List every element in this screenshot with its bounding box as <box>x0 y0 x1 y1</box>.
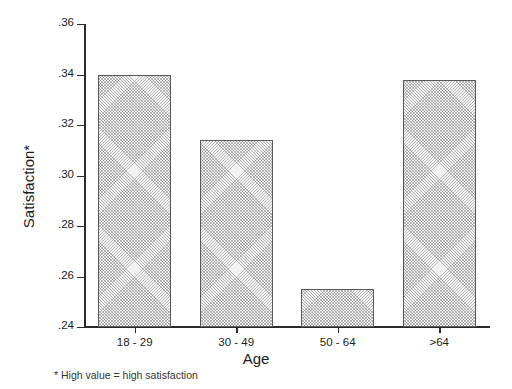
y-tick-mark <box>77 176 84 177</box>
y-tick-mark <box>77 24 84 25</box>
y-tick-mark <box>77 277 84 278</box>
y-tick-label: .32 <box>58 117 74 129</box>
y-tick-label: .34 <box>58 67 74 79</box>
y-axis-title-holder: Satisfaction* <box>0 0 40 389</box>
x-tick-label: 50 - 64 <box>320 336 356 348</box>
bar <box>200 140 273 327</box>
x-tick-mark <box>439 327 440 333</box>
x-tick-mark <box>135 327 136 333</box>
y-axis-title: Satisfaction* <box>20 67 37 307</box>
y-tick-label: .36 <box>58 16 74 28</box>
x-tick-label: 30 - 49 <box>218 336 254 348</box>
bar <box>301 289 374 327</box>
x-tick-label: 18 - 29 <box>117 336 153 348</box>
chart-footnote: * High value = high satisfaction <box>54 369 198 381</box>
y-tick-mark <box>77 75 84 76</box>
bar <box>403 80 476 327</box>
bar <box>98 75 171 328</box>
y-tick-label: .24 <box>58 319 74 331</box>
x-axis-title: Age <box>0 350 512 367</box>
bar-chart-figure: Satisfaction* .24.26.28.30.32.34.36 18 -… <box>0 0 512 389</box>
x-tick-mark <box>236 327 237 333</box>
y-tick-mark <box>77 125 84 126</box>
y-tick-mark <box>77 226 84 227</box>
y-tick-label: .26 <box>58 269 74 281</box>
x-tick-label: >64 <box>429 336 449 348</box>
y-tick-mark <box>77 327 84 328</box>
y-tick-label: .30 <box>58 168 74 180</box>
x-tick-mark <box>338 327 339 333</box>
y-tick-label: .28 <box>58 218 74 230</box>
y-axis-line <box>84 24 86 328</box>
